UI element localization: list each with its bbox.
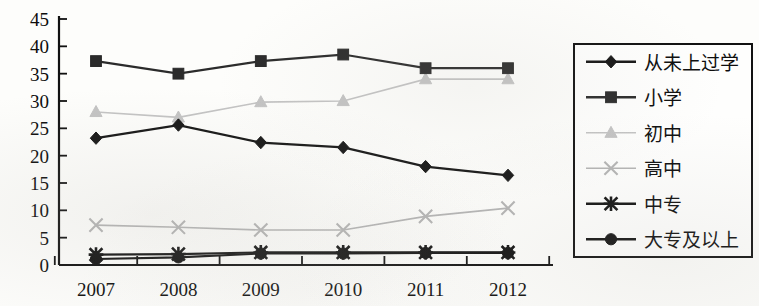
asterisk-marker — [253, 245, 268, 260]
x-tick-label: 2012 — [489, 279, 527, 300]
y-tick-label: 35 — [30, 64, 49, 85]
legend-label: 小学 — [644, 87, 682, 109]
diamond-marker — [502, 169, 513, 181]
line-chart: 454035302520151050 200720082009201020112… — [0, 0, 759, 306]
y-axis-tick-marks — [59, 19, 67, 238]
y-tick-label: 30 — [30, 91, 49, 112]
x-tick-label: 2007 — [77, 279, 115, 300]
y-tick-label: 15 — [30, 173, 49, 194]
y-tick-label: 45 — [30, 9, 49, 30]
legend-label: 初中 — [644, 123, 682, 145]
y-tick-label: 10 — [30, 200, 49, 221]
y-tick-label: 5 — [40, 228, 50, 249]
series-triangle — [90, 73, 514, 122]
x-tick-label: 2009 — [242, 279, 280, 300]
asterisk-marker — [604, 196, 619, 211]
diamond-marker — [420, 160, 431, 172]
legend-label: 中专 — [644, 194, 682, 216]
diamond-marker — [255, 136, 266, 148]
series-cross — [89, 202, 514, 237]
triangle-marker — [502, 73, 514, 84]
square-marker — [255, 56, 266, 67]
series-line — [96, 208, 508, 230]
x-tick-label: 2010 — [324, 279, 362, 300]
y-tick-label: 40 — [30, 36, 49, 57]
series-diamond — [90, 119, 513, 182]
triangle-marker — [90, 106, 102, 117]
diamond-marker — [90, 132, 101, 144]
square-marker — [606, 92, 617, 103]
circle-marker — [605, 234, 616, 245]
triangle-marker — [255, 96, 267, 107]
y-tick-label: 20 — [30, 146, 49, 167]
asterisk-marker — [89, 247, 104, 262]
legend-border — [574, 44, 752, 257]
square-marker — [91, 56, 102, 67]
chart-svg: 454035302520151050 200720082009201020112… — [0, 0, 759, 306]
square-marker — [173, 68, 184, 79]
diamond-marker — [337, 141, 348, 153]
data-series-layer — [89, 49, 516, 264]
asterisk-marker — [418, 245, 433, 260]
y-tick-label: 0 — [40, 255, 50, 276]
square-marker — [420, 63, 431, 74]
y-axis-tick-labels: 454035302520151050 — [30, 9, 49, 276]
x-tick-label: 2011 — [407, 279, 444, 300]
legend-label: 大专及以上 — [644, 229, 739, 251]
series-line — [96, 79, 508, 117]
asterisk-marker — [501, 245, 516, 260]
chart-legend: 从未上过学小学初中高中中专大专及以上 — [574, 44, 752, 257]
square-marker — [338, 49, 349, 60]
asterisk-marker — [171, 247, 186, 262]
legend-label: 高中 — [644, 158, 682, 180]
series-line — [96, 55, 508, 74]
y-tick-label: 25 — [30, 118, 49, 139]
series-line — [96, 125, 508, 175]
square-marker — [503, 63, 514, 74]
legend-label: 从未上过学 — [644, 52, 739, 74]
x-tick-label: 2008 — [159, 279, 197, 300]
triangle-marker — [420, 73, 432, 84]
series-square — [91, 49, 514, 79]
x-axis-tick-labels: 200720082009201020112012 — [77, 279, 527, 300]
asterisk-marker — [336, 245, 351, 260]
